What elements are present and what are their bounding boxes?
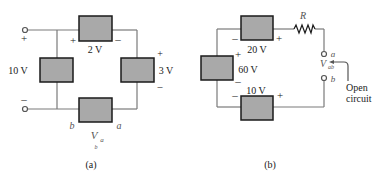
voltage-sub-b: b bbox=[95, 144, 98, 150]
terminal-minus-a: – bbox=[20, 93, 27, 105]
terminal-a-b bbox=[322, 52, 327, 57]
top-source-minus-b: – bbox=[231, 32, 238, 44]
caption-a: (a) bbox=[85, 159, 96, 171]
left-source-minus-b: – bbox=[234, 75, 241, 87]
right-source-label-a: 3 V bbox=[159, 65, 174, 76]
open-circuit-line1: Open bbox=[346, 82, 368, 93]
voltage-label-b: V bbox=[320, 58, 328, 69]
voltage-sub-ab: ab bbox=[328, 64, 334, 70]
top-source-minus-a: – bbox=[114, 33, 121, 45]
terminal-b-label: b bbox=[331, 74, 336, 84]
source-box-bottom-a bbox=[79, 98, 112, 122]
circuit-figure: + – + – 2 V 10 V + 3 V – b a V a b (a) bbox=[0, 0, 388, 181]
bottom-source-minus-b: – bbox=[231, 89, 238, 101]
source-box-bottom-b bbox=[241, 96, 273, 120]
terminal-plus-a: + bbox=[21, 32, 27, 44]
left-source-label-b: 60 V bbox=[238, 64, 258, 75]
terminal-a-label: a bbox=[331, 49, 336, 59]
left-source-plus-b: + bbox=[235, 48, 241, 60]
voltage-label-a: V bbox=[91, 129, 99, 141]
terminal-bottom-a bbox=[23, 107, 28, 112]
source-box-left-a bbox=[40, 58, 73, 82]
terminal-b-b bbox=[322, 76, 327, 81]
source-box-right-a bbox=[121, 58, 154, 82]
voltage-sub-a: a bbox=[100, 136, 104, 144]
left-source-label-a: 10 V bbox=[8, 65, 28, 76]
source-box-top-b bbox=[241, 16, 273, 40]
top-source-plus-a: + bbox=[70, 34, 76, 46]
right-source-plus-a: + bbox=[157, 48, 163, 59]
node-a-label-a: a bbox=[117, 120, 122, 131]
top-source-label-b: 20 V bbox=[247, 44, 267, 55]
bottom-source-label-b: 10 V bbox=[246, 85, 266, 96]
resistor-label: R bbox=[299, 10, 306, 21]
open-circuit-line2: circuit bbox=[346, 93, 372, 104]
top-source-plus-b: + bbox=[276, 32, 282, 44]
node-b-label-a: b bbox=[70, 120, 75, 131]
bottom-source-plus-b: + bbox=[277, 89, 283, 101]
top-source-label-a: 2 V bbox=[88, 44, 103, 55]
caption-b: (b) bbox=[264, 159, 276, 171]
source-box-top-a bbox=[79, 16, 112, 41]
source-box-left-b bbox=[201, 56, 233, 80]
right-source-minus-a: – bbox=[157, 81, 164, 92]
resistor-icon bbox=[294, 25, 315, 33]
